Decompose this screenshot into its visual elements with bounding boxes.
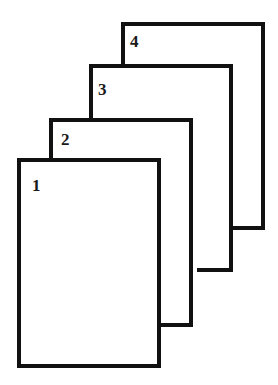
stacked-pages-diagram: 4 3 2 1 [0, 0, 278, 385]
page-2-label: 2 [61, 130, 70, 149]
page-3-label: 3 [98, 80, 107, 99]
page-4-label: 4 [130, 32, 139, 51]
page-1-label: 1 [32, 176, 41, 195]
page-1: 1 [19, 160, 159, 366]
